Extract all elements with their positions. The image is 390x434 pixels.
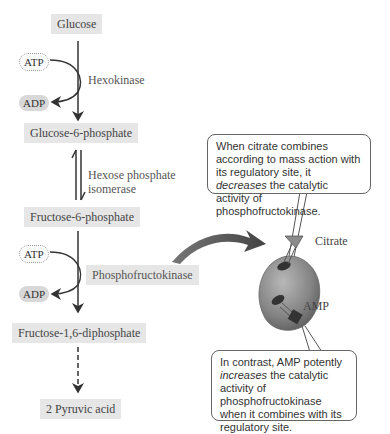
metabolite-f16bp: Fructose-1,6-diphosphate (12, 323, 146, 343)
callout-citrate-pre: When citrate combines according to mass … (216, 140, 360, 178)
curved-arrow (172, 230, 266, 264)
cofactor-atp-2: ATP (19, 245, 49, 263)
cofactor-adp-2: ADP (19, 286, 49, 302)
metabolite-g6p: Glucose-6-phosphate (24, 123, 138, 143)
regulator-citrate-label: Citrate (315, 234, 348, 249)
enzyme-isomerase-label-1: Hexose phosphate (88, 168, 176, 183)
cofactor-adp-1: ADP (19, 95, 49, 111)
callout-citrate: When citrate combines according to mass … (207, 134, 371, 194)
atp-adp-arrow-2 (50, 252, 81, 294)
callout-citrate-emph: decreases (216, 179, 267, 191)
enzyme-pfk-label: Phosphofructokinase (86, 265, 199, 285)
callout-amp-emph: increases (220, 369, 267, 381)
citrate-shape (285, 236, 303, 248)
atp-adp-arrow-1 (50, 60, 81, 102)
callout-amp-pre: In contrast, AMP potently (220, 356, 342, 368)
metabolite-glucose: Glucose (51, 14, 102, 34)
enzyme-isomerase-label-2: isomerase (88, 182, 136, 197)
metabolite-f6p: Fructose-6-phosphate (24, 207, 140, 227)
cofactor-atp-1: ATP (19, 53, 49, 71)
callout-amp: In contrast, AMP potently increases the … (211, 350, 357, 421)
enzyme-hexokinase-label: Hexokinase (88, 73, 145, 88)
metabolite-pyruvate: 2 Pyruvic acid (40, 399, 121, 419)
regulator-amp-label: AMP (303, 299, 329, 314)
